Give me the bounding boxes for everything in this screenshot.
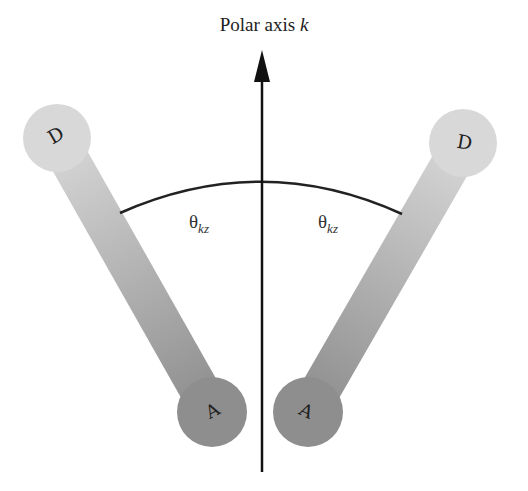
left-molecule-bar [57, 138, 212, 412]
left-angle-symbol: θ [189, 211, 198, 232]
right-angle-subscript: kz [327, 221, 338, 236]
right-angle-symbol: θ [318, 211, 327, 232]
dipole-orientation-diagram [0, 0, 528, 491]
axis-arrowhead-icon [254, 50, 270, 82]
right-molecule-bar [308, 143, 463, 412]
left-angle-subscript: kz [198, 221, 209, 236]
left-molecule [23, 104, 247, 447]
right-molecule [273, 109, 497, 447]
right-angle-label: θkz [318, 211, 338, 237]
left-angle-label: θkz [189, 211, 209, 237]
